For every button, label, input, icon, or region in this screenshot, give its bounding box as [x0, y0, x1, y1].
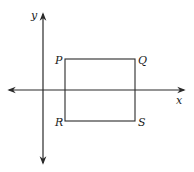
vertex-label-q: Q — [138, 54, 147, 67]
coordinate-plane-diagram: x y P Q R S — [0, 0, 194, 172]
vertex-label-r: R — [54, 116, 63, 129]
vertex-label-s: S — [138, 116, 146, 129]
y-axis-label: y — [30, 9, 38, 22]
vertex-label-p: P — [54, 54, 63, 67]
x-axis-label: x — [176, 94, 183, 107]
